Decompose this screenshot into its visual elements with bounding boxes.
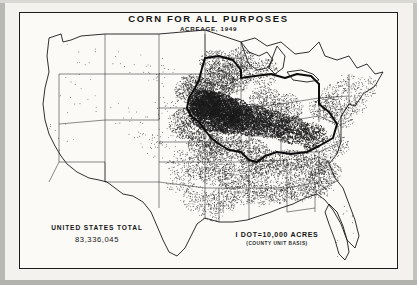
map-page: CORN FOR ALL PURPOSES ACREAGE, 1949 UNIT…: [0, 0, 417, 285]
legend-dot-value: I DOT=10,000 ACRES: [218, 231, 336, 238]
scan-edge-right: [413, 0, 417, 285]
national-total-label: UNITED STATES TOTAL: [32, 224, 162, 231]
map-legend: I DOT=10,000 ACRES (COUNTY UNIT BASIS): [218, 231, 336, 246]
map-subtitle: ACREAGE, 1949: [0, 25, 417, 32]
national-total-value: 83,336,045: [32, 235, 162, 244]
scan-edge-left: [0, 0, 5, 285]
scan-edge-top: [0, 0, 417, 3]
national-total-block: UNITED STATES TOTAL 83,336,045: [32, 224, 162, 244]
legend-unit-basis: (COUNTY UNIT BASIS): [218, 241, 336, 246]
scan-edge-bottom: [0, 280, 417, 285]
map-title: CORN FOR ALL PURPOSES: [0, 13, 417, 24]
